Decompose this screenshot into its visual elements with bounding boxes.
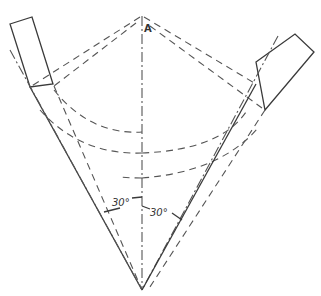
diagram-canvas: A 30° 30° — [0, 0, 321, 296]
arc-1-left — [54, 90, 142, 132]
right-solid-line — [142, 84, 256, 290]
ray-right-2 — [150, 26, 262, 108]
ray-left-2 — [54, 23, 136, 86]
angle-right-leader-2 — [172, 213, 182, 220]
arc-3-right — [142, 128, 258, 178]
arc-3-left-tick — [120, 177, 142, 178]
angle-left-label: 30° — [112, 197, 130, 208]
ray-right-1 — [144, 17, 256, 84]
arc-2-right — [142, 112, 246, 153]
left-dash-line — [54, 86, 142, 290]
angle-right-leader-1 — [142, 206, 150, 209]
right-block — [256, 34, 314, 110]
angle-right-label: 30° — [150, 207, 168, 218]
ray-left-1 — [30, 17, 140, 87]
angle-left-leader-2 — [132, 197, 142, 198]
right-dash-line — [148, 110, 265, 290]
apex-label: A — [144, 23, 152, 34]
